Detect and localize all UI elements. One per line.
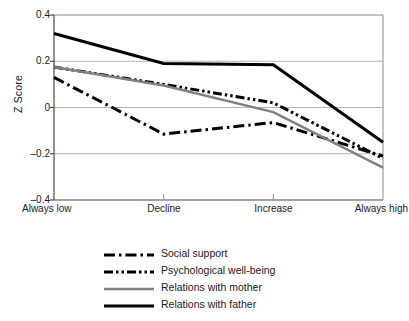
legend-swatch-icon <box>104 264 154 276</box>
legend-item: Social support <box>104 244 364 261</box>
legend-swatch-icon <box>104 247 154 259</box>
x-tick-label: Decline <box>147 203 180 215</box>
legend-item: Relations with father <box>104 295 364 312</box>
x-axis-tick-labels: Always lowDeclineIncreaseAlways high <box>0 203 409 223</box>
legend-swatch-icon <box>104 281 154 293</box>
legend-label: Relations with mother <box>161 281 262 293</box>
legend-label: Psychological well-being <box>161 264 275 276</box>
x-tick-label: Increase <box>254 203 292 215</box>
chart-figure: Z Score 0.40.20–0.2–0.4 Always lowDeclin… <box>0 0 409 321</box>
x-tick-label: Always low <box>22 203 71 215</box>
x-tick-label: Always high <box>355 203 408 215</box>
legend-item: Psychological well-being <box>104 261 364 278</box>
legend-label: Social support <box>161 247 228 259</box>
legend-swatch-icon <box>104 298 154 310</box>
legend-label: Relations with father <box>161 298 256 310</box>
legend-item: Relations with mother <box>104 278 364 295</box>
chart-legend: Social supportPsychological well-beingRe… <box>104 244 364 312</box>
